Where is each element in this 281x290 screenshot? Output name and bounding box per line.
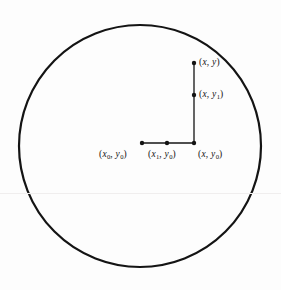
label-point-x-y1: (x, y1) [199,90,223,100]
point-x-y [192,61,196,65]
label-subscript-x: 0 [107,153,111,160]
label-close-paren: ) [216,57,219,67]
scan-artifact-line [0,193,281,194]
label-close-paren: ) [220,89,223,99]
figure-canvas: (x, y) (x, y1) (x0, y0) (x1, y0) (x, y0) [0,0,281,290]
label-subscript-y: 0 [169,153,173,160]
diagram-svg [0,0,281,290]
label-subscript-y: 0 [216,153,220,160]
point-x0-y0 [140,141,144,145]
label-point-x1-y0: (x1, y0) [148,150,176,160]
label-var-y: y [211,149,215,159]
label-subscript-y: 0 [120,153,124,160]
label-point-x0-y0: (x0, y0) [99,150,127,160]
label-var-y: y [212,89,216,99]
label-subscript-y: 1 [217,93,221,100]
label-subscript-x: 1 [156,153,160,160]
label-point-x-y: (x, y) [199,58,220,68]
point-x1-y0 [165,141,169,145]
circle-outline [19,25,261,267]
label-close-paren: ) [219,149,222,159]
point-x-y1 [192,93,196,97]
label-point-x-y0: (x, y0) [198,150,222,160]
point-x-y0 [192,141,196,145]
